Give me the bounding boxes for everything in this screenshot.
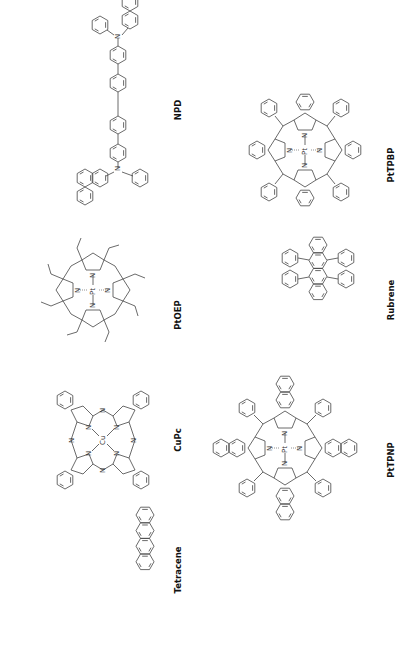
atom-n: N [114, 34, 122, 39]
atom-n: N [74, 288, 82, 293]
atom-pt: Pt [301, 148, 309, 155]
atom-cu: Cu [99, 436, 107, 445]
atom-n: N [130, 438, 138, 443]
tetracene-structure [136, 507, 154, 569]
atom-n: N [316, 148, 324, 153]
atom-n: N [301, 133, 309, 138]
molecule-figure: N N NPD N N N N Pt PtOEP [0, 0, 414, 655]
atom-n: N [99, 468, 107, 473]
rubrene-structure [282, 237, 354, 299]
atom-n: N [85, 451, 93, 456]
label-pttpnp: PtTPNP [386, 442, 396, 478]
atom-n: N [68, 438, 76, 443]
atom-n: N [301, 163, 309, 168]
label-rubrene: Rubrene [386, 280, 396, 321]
atom-n: N [281, 431, 289, 436]
label-npd: NPD [173, 100, 183, 120]
molecule-ptoep: N N N N Pt PtOEP [41, 238, 183, 342]
molecule-cupc: N N N N N N N N Cu CuPc [57, 391, 183, 489]
atom-n: N [114, 166, 122, 171]
molecule-pttpbp: N N N N Pt PtTPBP [249, 94, 396, 206]
atom-n: N [113, 425, 121, 430]
atom-n: N [286, 148, 294, 153]
molecule-rubrene: Rubrene [282, 237, 396, 320]
molecule-npd: N N NPD [77, 0, 183, 205]
label-tetracene: Tetracene [173, 546, 183, 593]
atom-n: N [266, 446, 274, 451]
molecule-pttpnp: N N N N Pt PtTPNP [213, 376, 396, 520]
atom-n: N [104, 288, 112, 293]
label-pttpbp: PtTPBP [386, 147, 396, 182]
molecule-tetracene: Tetracene [136, 507, 183, 593]
atom-n: N [89, 303, 97, 308]
atom-n: N [85, 425, 93, 430]
npd-structure [77, 0, 148, 205]
label-cupc: CuPc [173, 428, 183, 452]
label-ptoep: PtOEP [173, 300, 183, 330]
atom-pt: Pt [89, 288, 97, 295]
atom-n: N [99, 408, 107, 413]
atom-pt: Pt [281, 446, 289, 453]
atom-n: N [281, 461, 289, 466]
atom-n: N [113, 451, 121, 456]
atom-n: N [89, 273, 97, 278]
atom-n: N [296, 446, 304, 451]
